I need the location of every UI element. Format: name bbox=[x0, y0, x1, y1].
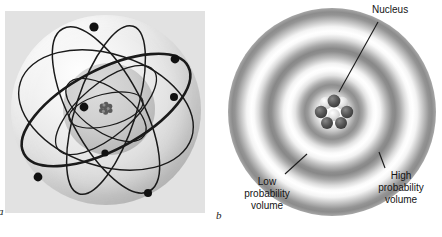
label-low-probability-volume: Low probability volume bbox=[230, 176, 304, 212]
label-high-probability-volume: High probability volume bbox=[365, 170, 437, 206]
label-high-line-2: probability bbox=[365, 182, 437, 194]
label-high-line-3: volume bbox=[365, 194, 437, 206]
panel-letter-b: b bbox=[216, 209, 222, 221]
label-low-line-2: probability bbox=[230, 188, 304, 200]
nucleus-cluster-panel-b bbox=[312, 90, 356, 132]
label-high-line-1: High bbox=[365, 170, 437, 182]
atomic-models-figure: Nucleus Low probability volume High prob… bbox=[0, 0, 442, 237]
label-low-line-3: volume bbox=[230, 200, 304, 212]
label-low-line-1: Low bbox=[230, 176, 304, 188]
panel-a-artwork bbox=[5, 11, 205, 213]
panel-letter-a: a bbox=[0, 205, 4, 217]
panel-a-bohr-model bbox=[5, 11, 205, 213]
label-nucleus: Nucleus bbox=[372, 4, 408, 16]
nucleus-cluster-panel-a bbox=[98, 101, 114, 116]
